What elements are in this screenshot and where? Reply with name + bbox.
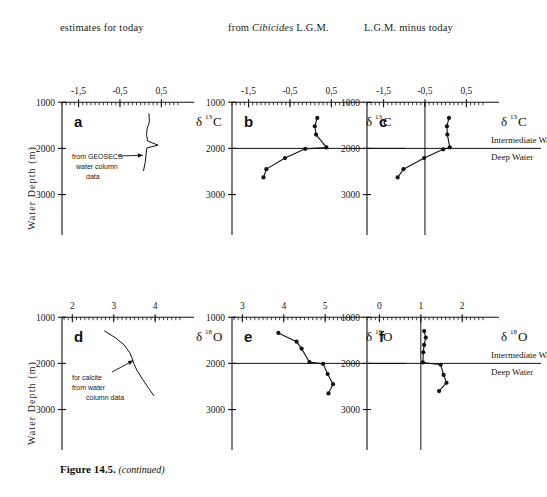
depth-axis-tick-label: 3000 <box>341 405 360 415</box>
data-point-marker <box>261 175 265 179</box>
data-point-marker <box>439 363 443 367</box>
isotope-label-element: O <box>518 329 527 344</box>
data-point-marker <box>326 372 330 376</box>
value-axis-tick-label: 5 <box>323 301 328 311</box>
panel-c: -1,5-0,50,5100020003000δ13CcIntermediate… <box>335 58 547 243</box>
value-axis-tick-label: 0,5 <box>460 86 472 96</box>
data-point-marker <box>401 167 405 171</box>
panel-letter-a: a <box>74 113 83 130</box>
data-point-marker <box>326 391 330 395</box>
data-point-marker <box>276 331 280 335</box>
value-axis-tick-label: 2 <box>70 301 75 311</box>
value-axis-tick-label: -1,5 <box>71 86 86 96</box>
data-point-marker <box>441 147 445 151</box>
depth-axis-tick-label: 1000 <box>341 313 360 323</box>
column-header-today-text: estimates for today <box>60 22 144 33</box>
data-point-marker <box>307 360 311 364</box>
data-point-marker <box>447 116 451 120</box>
depth-axis-tick-label: 2000 <box>36 359 55 369</box>
data-point-marker <box>313 124 317 128</box>
data-point-marker <box>314 132 318 136</box>
data-point-marker <box>445 124 449 128</box>
data-point-marker <box>422 156 426 160</box>
data-point-marker <box>448 145 452 149</box>
column-header-cibicides: from Cibicides L.G.M. <box>228 22 329 33</box>
data-point-marker <box>315 116 319 120</box>
value-axis-tick-label: 3 <box>240 301 245 311</box>
data-point-marker <box>421 360 425 364</box>
panel-f: 012100020003000δ18OfIntermediate WaterDe… <box>335 273 547 458</box>
column-header-cibicides-post: L.G.M. <box>294 22 329 33</box>
depth-axis-tick-label: 1000 <box>206 313 225 323</box>
depth-axis-tick-label: 3000 <box>36 190 55 200</box>
panel-letter-d: d <box>74 328 83 345</box>
panel-letter-e: e <box>244 328 252 345</box>
value-axis-tick-label: 0 <box>377 301 382 311</box>
value-axis-tick-label: 4 <box>153 301 158 311</box>
annotation-d: for calcitefrom watercolumn data <box>72 361 133 401</box>
value-axis-tick-label: 1 <box>418 301 423 311</box>
panel-letter-c: c <box>379 113 387 130</box>
depth-axis-tick-label: 2000 <box>341 359 360 369</box>
label-intermediate-water: Intermediate Water <box>491 135 547 145</box>
value-axis-tick-label: 0,5 <box>155 86 167 96</box>
column-header-cibicides-pre: from <box>228 22 252 33</box>
data-point-marker <box>421 350 425 354</box>
data-point-marker <box>444 381 448 385</box>
label-intermediate-water: Intermediate Water <box>491 350 547 360</box>
figure-caption-continued: (continued) <box>118 464 164 475</box>
depth-axis-tick-label: 1000 <box>36 98 55 108</box>
data-point-marker <box>324 145 328 149</box>
data-point-marker <box>437 389 441 393</box>
isotope-label-mass: 13 <box>510 113 518 121</box>
depth-axis-tick-label: 1000 <box>206 98 225 108</box>
label-deep-water: Deep Water <box>491 152 533 162</box>
isotope-label-element: C <box>518 114 527 129</box>
annotation-line: for calcite <box>72 374 102 381</box>
annotation-line: water column <box>75 163 118 170</box>
data-point-marker <box>396 175 400 179</box>
column-header-difference: L.G.M. minus today <box>364 22 453 33</box>
label-deep-water: Deep Water <box>491 367 533 377</box>
panel-letter-f: f <box>379 328 385 345</box>
chart-f: 012100020003000δ18OfIntermediate WaterDe… <box>335 273 547 458</box>
value-axis-tick-label: -0,5 <box>282 86 297 96</box>
depth-axis-tick-label: 2000 <box>341 144 360 154</box>
value-axis-tick-label: -1,5 <box>241 86 256 96</box>
data-point-marker <box>264 167 268 171</box>
depth-axis-tick-label: 1000 <box>341 98 360 108</box>
annotation-line: from water <box>72 384 106 391</box>
data-point-marker <box>294 340 298 344</box>
depth-axis-tick-label: 2000 <box>36 144 55 154</box>
value-axis-tick-label: -1,5 <box>376 86 391 96</box>
isotope-label-mass: 18 <box>510 328 518 336</box>
data-point-marker <box>321 362 325 366</box>
value-axis-tick-label: -0,5 <box>112 86 127 96</box>
data-point-marker <box>422 343 426 347</box>
annotation-line: from GEOSECS <box>72 153 123 160</box>
column-header-difference-text: L.G.M. minus today <box>364 22 453 33</box>
column-header-today: estimates for today <box>60 22 144 33</box>
chart-c: -1,5-0,50,5100020003000δ13CcIntermediate… <box>335 58 547 243</box>
depth-axis-tick-label: 1000 <box>36 313 55 323</box>
data-point-marker <box>445 132 449 136</box>
data-point-marker <box>422 329 426 333</box>
depth-axis-tick-label: 2000 <box>206 359 225 369</box>
annotation-arrowhead <box>138 153 143 157</box>
data-point-marker <box>303 147 307 151</box>
annotation-line: column data <box>86 394 124 401</box>
data-series-line-a <box>144 114 159 171</box>
value-axis-tick-label: 4 <box>281 301 286 311</box>
value-axis-tick-label: 2 <box>460 301 465 311</box>
data-point-marker <box>442 373 446 377</box>
depth-axis-tick-label: 3000 <box>206 405 225 415</box>
data-series-line-f <box>423 331 447 391</box>
isotope-label-delta: δ <box>501 114 507 129</box>
value-axis-tick-label: -0,5 <box>417 86 432 96</box>
depth-axis-tick-label: 3000 <box>341 190 360 200</box>
column-header-cibicides-genus: Cibicides <box>252 22 293 33</box>
depth-axis-tick-label: 3000 <box>206 190 225 200</box>
data-point-marker <box>299 347 303 351</box>
depth-axis-tick-label: 3000 <box>36 405 55 415</box>
data-series-line-b <box>263 118 326 178</box>
